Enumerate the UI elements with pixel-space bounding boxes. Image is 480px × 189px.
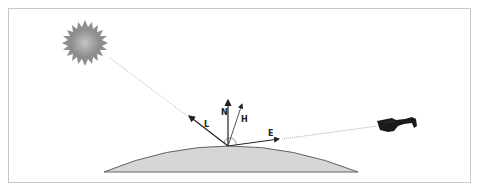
lighting-diagram: N H L E bbox=[0, 0, 480, 189]
sun-icon bbox=[62, 20, 108, 66]
eye-ray-dotted bbox=[282, 126, 378, 139]
surface-dome bbox=[104, 146, 358, 172]
light-label: L bbox=[204, 120, 209, 129]
light-ray-dotted bbox=[110, 58, 186, 115]
half-vector bbox=[228, 104, 242, 146]
glasses-icon bbox=[377, 117, 417, 132]
normal-label: N bbox=[221, 108, 228, 117]
half-vector-label: H bbox=[241, 115, 248, 124]
eye-label: E bbox=[268, 129, 273, 138]
